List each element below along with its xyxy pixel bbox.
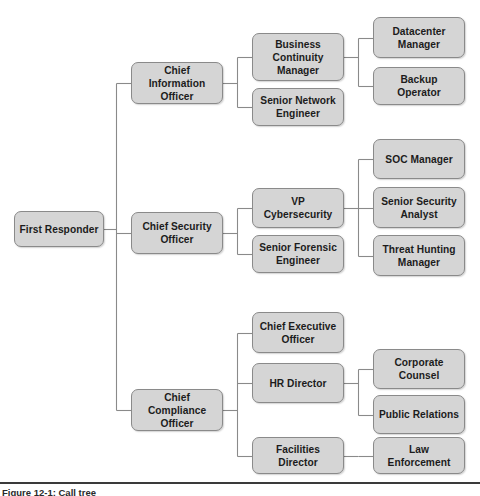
node-threat-hunting-manager[interactable]: Threat Hunting Manager <box>373 235 465 276</box>
node-label-chief-compliance-officer: Chief Compliance Officer <box>136 391 218 430</box>
node-first-responder[interactable]: First Responder <box>14 211 104 247</box>
node-vp-cybersecurity[interactable]: VP Cybersecurity <box>252 188 344 228</box>
node-label-chief-executive-officer: Chief Executive Officer <box>260 320 337 346</box>
caption-divider <box>0 482 480 484</box>
node-senior-forensic-engineer[interactable]: Senior Forensic Engineer <box>252 235 344 273</box>
node-label-law-enforcement: Law Enforcement <box>378 443 460 469</box>
node-hr-director[interactable]: HR Director <box>252 363 344 403</box>
node-label-datacenter-manager: Datacenter Manager <box>392 25 445 51</box>
node-label-senior-forensic-engineer: Senior Forensic Engineer <box>259 241 337 267</box>
figure-caption: Figure 12-1: Call tree <box>2 487 472 496</box>
node-public-relations[interactable]: Public Relations <box>373 395 465 434</box>
node-label-facilities-director: Facilities Director <box>257 443 339 469</box>
node-label-business-continuity-manager: Business Continuity Manager <box>273 38 324 77</box>
node-label-threat-hunting-manager: Threat Hunting Manager <box>382 243 455 269</box>
node-label-soc-manager: SOC Manager <box>385 153 452 166</box>
node-label-senior-security-analyst: Senior Security Analyst <box>381 195 457 221</box>
node-label-hr-director: HR Director <box>269 377 326 390</box>
node-label-corporate-counsel: Corporate Counsel <box>378 356 460 382</box>
node-backup-operator[interactable]: Backup Operator <box>373 67 465 105</box>
node-label-chief-information-officer: Chief Information Officer <box>136 64 218 103</box>
node-datacenter-manager[interactable]: Datacenter Manager <box>373 17 465 58</box>
node-chief-information-officer[interactable]: Chief Information Officer <box>131 62 223 104</box>
node-label-senior-network-engineer: Senior Network Engineer <box>260 94 335 120</box>
node-label-vp-cybersecurity: VP Cybersecurity <box>257 195 339 221</box>
node-corporate-counsel[interactable]: Corporate Counsel <box>373 349 465 389</box>
node-soc-manager[interactable]: SOC Manager <box>373 139 465 179</box>
org-chart-figure: First ResponderChief Information Officer… <box>0 0 480 496</box>
node-senior-network-engineer[interactable]: Senior Network Engineer <box>252 88 344 126</box>
node-label-first-responder: First Responder <box>20 223 99 236</box>
node-business-continuity-manager[interactable]: Business Continuity Manager <box>252 33 344 81</box>
node-law-enforcement[interactable]: Law Enforcement <box>373 437 465 474</box>
node-chief-executive-officer[interactable]: Chief Executive Officer <box>252 312 344 353</box>
node-chief-security-officer[interactable]: Chief Security Officer <box>131 212 223 254</box>
node-senior-security-analyst[interactable]: Senior Security Analyst <box>373 187 465 228</box>
node-chief-compliance-officer[interactable]: Chief Compliance Officer <box>131 389 223 431</box>
node-facilities-director[interactable]: Facilities Director <box>252 437 344 474</box>
node-label-chief-security-officer: Chief Security Officer <box>142 220 211 246</box>
node-label-backup-operator: Backup Operator <box>378 73 460 99</box>
node-label-public-relations: Public Relations <box>379 408 459 421</box>
